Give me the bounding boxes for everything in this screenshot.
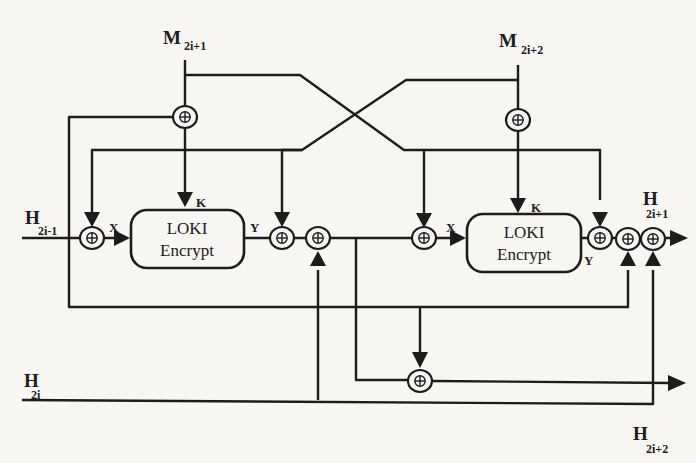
label-h-prev-odd-sub: 2i-1 <box>38 224 57 238</box>
xor-icon-m2 <box>506 109 530 131</box>
loki1-x-label: X <box>109 220 119 235</box>
wire-bottom-out <box>432 381 670 383</box>
label-m2-sub: 2i+2 <box>521 43 543 57</box>
label-h-next-even-sub: 2i+2 <box>646 442 668 456</box>
loki2-x-label: X <box>446 220 456 235</box>
loki2-y-label: Y <box>584 253 594 268</box>
xor-icon-y2 <box>588 227 612 249</box>
loki2-line1: LOKI <box>504 223 545 242</box>
loki1-y-label: Y <box>250 220 260 235</box>
arrow-up-xor-h2i <box>310 251 326 266</box>
arrow-down-xor-y2 <box>592 212 608 227</box>
xor-icon-y1 <box>270 227 294 249</box>
wire-mid-to-bottom <box>356 238 408 380</box>
arrow-up-xor-loop <box>620 251 636 266</box>
arrow-down-xor-x2 <box>416 213 432 228</box>
label-m2-main: M <box>499 30 517 51</box>
wire-m2-to-xor-y1 <box>282 150 302 218</box>
arrow-k2 <box>510 198 526 213</box>
arrow-out-h-next-odd <box>670 230 688 246</box>
diagram-canvas: LOKI Encrypt K X Y LOKI Encrypt K X Y M … <box>0 0 696 463</box>
arrow-out-h-next-even <box>668 375 686 391</box>
label-h-next-odd-sub: 2i+1 <box>646 207 668 221</box>
loki1-key-label: K <box>196 195 207 210</box>
label-m1-sub: 2i+1 <box>184 39 206 53</box>
loki1-line1: LOKI <box>167 219 208 238</box>
arrow-down-xor-y1 <box>274 212 290 227</box>
xor-icon-x1 <box>80 227 104 249</box>
loki2-key-label: K <box>531 200 542 215</box>
arrow-down-bottom-xor <box>412 352 428 368</box>
loki-hash-diagram: LOKI Encrypt K X Y LOKI Encrypt K X Y M … <box>0 0 696 463</box>
wire-m1-cross <box>185 75 600 200</box>
arrow-k1 <box>177 192 193 207</box>
label-h-next-odd-main: H <box>643 188 658 209</box>
loki-block-2: LOKI Encrypt K X Y <box>446 200 594 272</box>
xor-icon-bottom <box>408 370 432 392</box>
xor-icon-h2i <box>306 227 330 249</box>
label-h-next-even-main: H <box>633 423 648 444</box>
wire-h-prev-even <box>22 270 653 404</box>
xor-icon-h2i-right <box>641 228 665 250</box>
xor-icon-x2 <box>412 227 436 249</box>
xor-icon-m1 <box>173 106 197 128</box>
arrow-down-xor-x1 <box>84 212 100 227</box>
loki2-line2: Encrypt <box>497 245 551 264</box>
loki1-line2: Encrypt <box>160 241 214 260</box>
label-h-prev-even-sub: 2i <box>31 388 41 402</box>
label-m1-main: M <box>163 27 181 48</box>
xor-icon-loop <box>616 228 640 250</box>
arrow-up-xor-h2i-right <box>645 251 661 266</box>
